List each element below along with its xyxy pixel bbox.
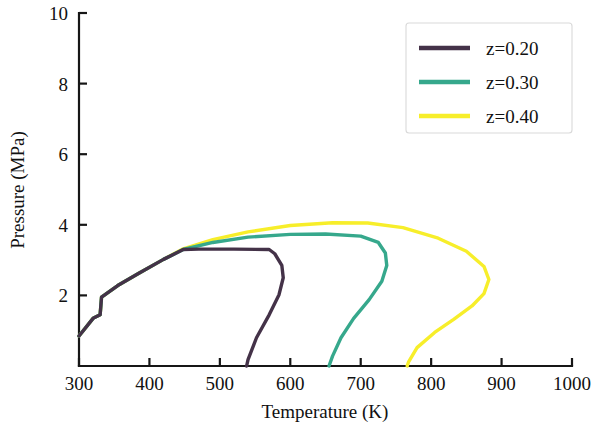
x-axis-ticks: 3004005006007008009001000 xyxy=(65,358,591,394)
data-series-group xyxy=(79,223,489,366)
legend-label-2: z=0.30 xyxy=(486,72,538,93)
legend: z=0.20z=0.30z=0.40 xyxy=(406,23,572,133)
series-curve-z-0-20 xyxy=(79,249,283,366)
y-axis-ticks: 246810 xyxy=(49,3,87,306)
x-axis-title: Temperature (K) xyxy=(262,401,389,423)
phase-envelope-figure: 3004005006007008009001000 246810 Tempera… xyxy=(0,0,595,427)
legend-label-3: z=0.40 xyxy=(486,106,538,127)
chart-canvas: 3004005006007008009001000 246810 Tempera… xyxy=(0,0,595,427)
x-tick-label: 700 xyxy=(346,373,375,394)
x-tick-label: 900 xyxy=(487,373,516,394)
series-curve-z-0-30 xyxy=(79,234,387,366)
y-axis-title: Pressure (MPa) xyxy=(7,131,29,249)
y-tick-label: 4 xyxy=(59,215,69,236)
x-tick-label: 600 xyxy=(276,373,305,394)
x-tick-label: 300 xyxy=(65,373,94,394)
y-tick-label: 10 xyxy=(49,3,68,24)
y-tick-label: 6 xyxy=(59,144,69,165)
x-tick-label: 400 xyxy=(135,373,164,394)
series-curve-z-0-40 xyxy=(79,223,489,366)
y-tick-label: 8 xyxy=(59,74,69,95)
x-tick-label: 1000 xyxy=(553,373,591,394)
x-tick-label: 500 xyxy=(206,373,235,394)
y-tick-label: 2 xyxy=(59,285,69,306)
legend-label-1: z=0.20 xyxy=(486,38,538,59)
x-tick-label: 800 xyxy=(417,373,446,394)
